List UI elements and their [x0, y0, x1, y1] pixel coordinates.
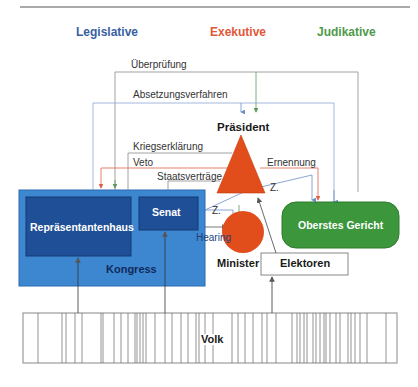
label-review: Überprüfung	[131, 60, 187, 70]
label-war-declaration: Kriegserklärung	[133, 142, 203, 152]
appointment-line	[260, 168, 318, 200]
header-judicial: Judikative	[317, 26, 376, 38]
label-court: Oberstes Gericht	[298, 220, 383, 231]
label-minister: Minister	[217, 258, 259, 269]
header-executive: Exekutive	[210, 26, 266, 38]
label-appointment: Ernennung	[267, 158, 316, 168]
header-legislative: Legislative	[76, 26, 138, 38]
separation-of-powers-diagram: Legislative Exekutive Judikative Überprü…	[0, 0, 418, 387]
label-veto: Veto	[133, 158, 153, 168]
label-president: Präsident	[217, 122, 269, 134]
label-hearing: Hearing	[196, 233, 231, 243]
label-house: Repräsentantenhaus	[30, 222, 134, 233]
label-consent-senate: Z.	[212, 206, 221, 216]
label-impeachment: Absetzungsverfahren	[133, 90, 228, 100]
label-congress: Kongress	[106, 264, 157, 275]
label-treaties: Staatsverträge	[157, 172, 222, 182]
label-consent-court: Z.	[270, 183, 279, 193]
label-senate: Senat	[152, 207, 181, 218]
diagram-canvas	[0, 0, 418, 387]
label-electors: Elektoren	[280, 258, 330, 269]
president-triangle	[217, 135, 265, 193]
label-people: Volk	[200, 334, 224, 345]
